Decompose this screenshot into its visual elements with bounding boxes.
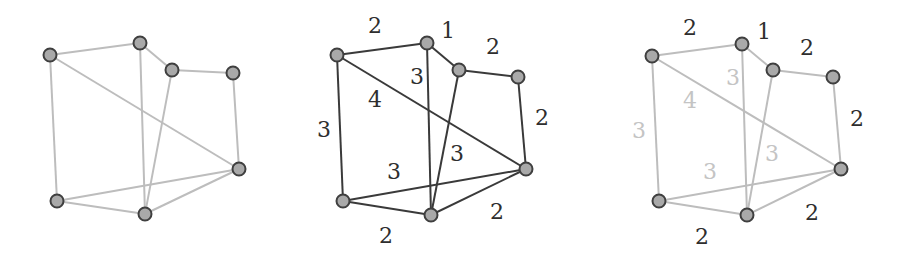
- edge-A-B: [50, 43, 140, 55]
- edge-weight-label: 3: [765, 141, 779, 166]
- edge-B-G: [427, 43, 431, 215]
- graph-figure: 2123432332221234323322: [0, 0, 900, 261]
- edge-F-G: [659, 201, 747, 215]
- edge-B-G: [140, 43, 145, 214]
- edge-weight-label: 4: [368, 87, 382, 112]
- edge-weight-label: 3: [387, 159, 401, 184]
- edge-weight-label: 2: [800, 35, 814, 60]
- edge-weight-label: 4: [683, 88, 697, 113]
- node-F: [337, 195, 350, 208]
- edge-B-G: [742, 44, 747, 215]
- edge-weight-label: 2: [379, 223, 393, 248]
- edge-C-D: [459, 70, 518, 77]
- edge-F-G: [343, 201, 431, 215]
- node-D: [827, 71, 840, 84]
- node-B: [134, 37, 147, 50]
- edge-A-B: [652, 44, 742, 56]
- node-G: [741, 209, 754, 222]
- node-G: [139, 208, 152, 221]
- edge-C-G: [145, 70, 172, 214]
- edge-weight-label: 3: [632, 118, 646, 143]
- edge-weight-label: 2: [490, 199, 504, 224]
- edge-weight-label: 2: [850, 106, 864, 131]
- graph-plain: [44, 37, 246, 221]
- edge-F-G: [57, 201, 145, 214]
- edge-D-E: [833, 77, 841, 169]
- edge-G-E: [747, 169, 841, 215]
- node-G: [425, 209, 438, 222]
- node-A: [44, 49, 57, 62]
- edge-G-E: [431, 169, 526, 215]
- edge-C-D: [172, 70, 233, 73]
- edge-D-E: [518, 77, 526, 169]
- edge-weight-label: 3: [410, 64, 424, 89]
- graph-weighted: 21234323322: [317, 13, 549, 248]
- node-C: [166, 64, 179, 77]
- node-A: [331, 49, 344, 62]
- edge-A-F: [50, 55, 57, 201]
- edge-weight-label: 2: [805, 200, 819, 225]
- edge-weight-label: 2: [535, 105, 549, 130]
- node-C: [767, 64, 780, 77]
- edge-weight-label: 1: [441, 18, 455, 43]
- edge-weight-label: 3: [726, 65, 740, 90]
- edge-weight-label: 2: [486, 34, 500, 59]
- edge-weight-label: 2: [368, 13, 382, 38]
- node-F: [653, 195, 666, 208]
- edge-G-E: [145, 169, 239, 214]
- edge-weight-label: 1: [757, 19, 771, 44]
- node-F: [51, 195, 64, 208]
- edge-A-B: [337, 43, 427, 55]
- node-D: [227, 67, 240, 80]
- node-D: [512, 71, 525, 84]
- edge-weight-label: 3: [703, 159, 717, 184]
- node-E: [835, 163, 848, 176]
- edge-weight-label: 2: [695, 224, 709, 249]
- edge-D-E: [233, 73, 239, 169]
- edge-weight-label: 3: [450, 141, 464, 166]
- node-B: [421, 37, 434, 50]
- node-B: [736, 38, 749, 51]
- graph-highlight-light-edges: 21234323322: [632, 15, 864, 249]
- edge-weight-label: 2: [683, 15, 697, 40]
- edge-A-F: [652, 56, 659, 201]
- node-A: [646, 50, 659, 63]
- edge-A-F: [337, 55, 343, 201]
- node-C: [453, 64, 466, 77]
- node-E: [233, 163, 246, 176]
- edge-A-E: [337, 55, 526, 169]
- node-E: [520, 163, 533, 176]
- edge-C-D: [773, 70, 833, 77]
- edge-weight-label: 3: [317, 117, 331, 142]
- edge-A-E: [652, 56, 841, 169]
